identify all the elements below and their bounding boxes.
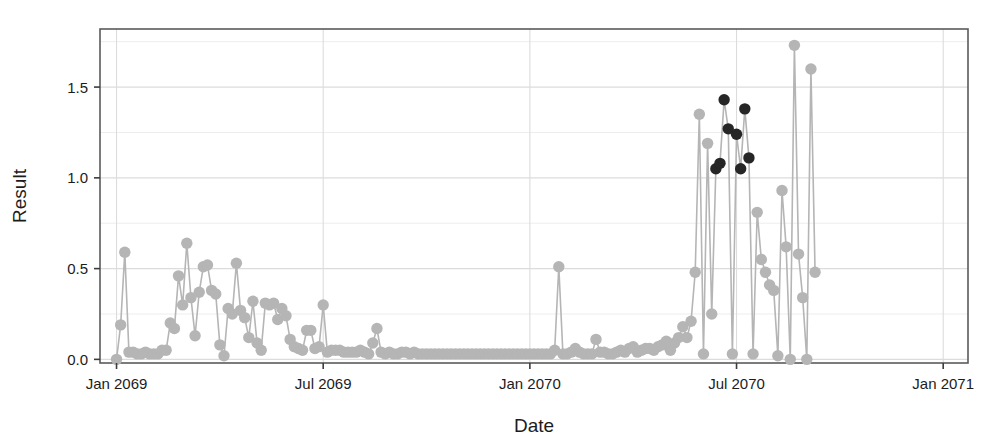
data-point bbox=[760, 267, 771, 278]
data-point bbox=[801, 354, 812, 365]
data-point bbox=[160, 345, 171, 356]
highlighted-data-point bbox=[731, 129, 742, 140]
x-tick-label: Jul 2070 bbox=[708, 375, 765, 392]
data-point bbox=[789, 40, 800, 51]
data-point bbox=[214, 339, 225, 350]
data-point bbox=[119, 247, 130, 258]
data-point bbox=[115, 319, 126, 330]
data-point bbox=[305, 325, 316, 336]
data-point bbox=[189, 330, 200, 341]
data-point bbox=[169, 323, 180, 334]
data-point bbox=[367, 337, 378, 348]
data-point bbox=[239, 312, 250, 323]
data-point bbox=[793, 248, 804, 259]
result-vs-date-line-chart: 0.00.51.01.5 Jan 2069Jul 2069Jan 2070Jul… bbox=[0, 0, 1002, 445]
y-tick-label: 1.5 bbox=[67, 79, 88, 96]
x-tick-label: Jan 2069 bbox=[86, 375, 148, 392]
data-point bbox=[797, 292, 808, 303]
data-point bbox=[363, 348, 374, 359]
highlighted-data-point bbox=[735, 163, 746, 174]
data-point bbox=[706, 308, 717, 319]
data-point bbox=[727, 348, 738, 359]
data-point bbox=[785, 354, 796, 365]
data-point bbox=[685, 316, 696, 327]
data-point bbox=[752, 207, 763, 218]
highlighted-data-point bbox=[718, 94, 729, 105]
x-tick-label: Jan 2071 bbox=[912, 375, 974, 392]
data-point bbox=[776, 185, 787, 196]
data-point bbox=[318, 299, 329, 310]
data-point bbox=[210, 288, 221, 299]
data-point bbox=[702, 138, 713, 149]
chart-container: 0.00.51.01.5 Jan 2069Jul 2069Jan 2070Jul… bbox=[0, 0, 1002, 445]
data-point bbox=[297, 345, 308, 356]
data-point bbox=[181, 238, 192, 249]
data-point bbox=[256, 345, 267, 356]
data-point bbox=[371, 323, 382, 334]
data-point bbox=[218, 350, 229, 361]
highlighted-data-point bbox=[739, 103, 750, 114]
data-point bbox=[690, 267, 701, 278]
highlighted-data-point bbox=[714, 158, 725, 169]
data-point bbox=[809, 267, 820, 278]
data-point bbox=[553, 261, 564, 272]
data-point bbox=[173, 270, 184, 281]
data-point bbox=[805, 63, 816, 74]
data-point bbox=[231, 257, 242, 268]
data-point bbox=[698, 348, 709, 359]
data-point bbox=[247, 296, 258, 307]
data-point bbox=[681, 332, 692, 343]
data-point bbox=[590, 334, 601, 345]
data-point bbox=[694, 109, 705, 120]
x-tick-label: Jan 2070 bbox=[499, 375, 561, 392]
data-point bbox=[280, 310, 291, 321]
data-point bbox=[747, 348, 758, 359]
x-tick-label: Jul 2069 bbox=[295, 375, 352, 392]
data-point bbox=[202, 259, 213, 270]
data-point bbox=[780, 241, 791, 252]
y-axis-title: Result bbox=[9, 168, 30, 223]
data-point bbox=[772, 350, 783, 361]
data-point bbox=[756, 254, 767, 265]
y-tick-label: 0.0 bbox=[67, 351, 88, 368]
data-point bbox=[768, 285, 779, 296]
highlighted-data-point bbox=[743, 152, 754, 163]
data-point bbox=[194, 287, 205, 298]
y-tick-label: 0.5 bbox=[67, 260, 88, 277]
x-axis-title: Date bbox=[514, 415, 554, 436]
y-tick-label: 1.0 bbox=[67, 169, 88, 186]
